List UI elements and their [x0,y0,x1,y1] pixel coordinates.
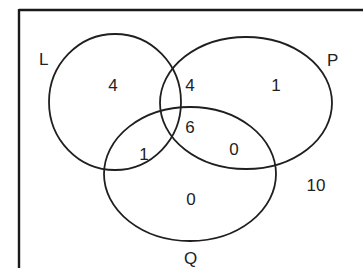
set-p-ellipse [160,37,332,169]
set-p-label: P [327,51,338,70]
region-p-only: 1 [271,76,280,95]
region-l-and-p: 4 [185,76,194,95]
region-l-p-q: 6 [185,118,194,137]
set-l-label: L [39,50,48,69]
set-q-label: Q [184,249,197,268]
region-l-and-q: 1 [139,145,148,164]
region-q-only: 0 [186,190,195,209]
venn-diagram: L P Q 4 4 1 1 6 0 0 10 [0,0,363,268]
region-outside: 10 [307,176,326,195]
set-l-ellipse [49,34,181,170]
region-l-only: 4 [108,76,117,95]
region-p-and-q: 0 [229,140,238,159]
